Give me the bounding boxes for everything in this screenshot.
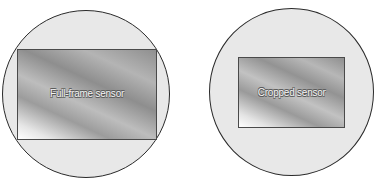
full-frame-sensor-label: Full-frame sensor (50, 87, 124, 99)
cropped-sensor-label: Cropped sensor (258, 86, 326, 98)
cropped-sensor-rect: Cropped sensor (238, 57, 345, 128)
full-frame-sensor-rect: Full-frame sensor (17, 49, 157, 140)
